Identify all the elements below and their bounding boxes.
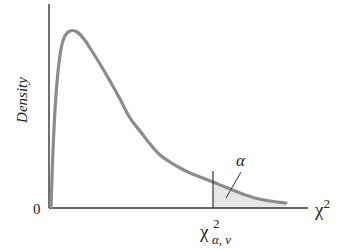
critical-value-label: χ [199, 221, 209, 242]
chi-square-density-chart: Density 0 α χ2 χ 2 α, ν [0, 0, 358, 251]
x-axis-label: χ2 [314, 196, 330, 220]
y-axis-label: Density [14, 77, 30, 124]
critical-value-sub: α, ν [212, 232, 231, 247]
density-curve [51, 31, 286, 207]
alpha-label: α [236, 151, 246, 170]
origin-label: 0 [33, 201, 41, 217]
critical-value-base: χ [199, 221, 209, 242]
x-axis-label-sup: 2 [323, 196, 330, 211]
critical-value-sup: 2 [213, 216, 220, 231]
